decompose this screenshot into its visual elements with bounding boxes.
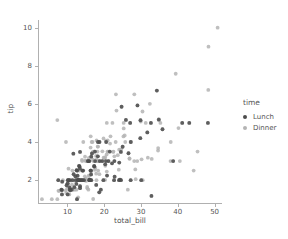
data-point [110,161,114,165]
data-point [104,140,108,144]
data-point [72,172,76,176]
data-point [71,178,75,182]
data-point [112,154,116,158]
data-point [65,183,69,187]
data-point [148,102,152,106]
data-point [141,110,145,114]
data-point [94,183,98,187]
data-point [156,146,160,150]
data-point [123,140,127,144]
data-point [127,151,131,155]
data-point [96,154,100,158]
legend: time LunchDinner [243,98,276,133]
data-point [100,149,104,153]
data-point [64,140,68,144]
data-point [81,169,85,173]
series-dinner [40,26,219,201]
data-point [89,134,93,138]
x-tick-mark [141,204,142,207]
data-points-layer [38,20,222,203]
y-tick-mark [35,142,38,143]
legend-entries: LunchDinner [243,111,276,133]
data-point [90,140,94,144]
x-tick-mark [104,204,105,207]
x-tick-mark [215,204,216,207]
data-point [132,159,136,163]
data-point [117,168,121,172]
data-point [60,193,64,197]
x-tick-label: 20 [93,208,115,216]
data-point [216,26,220,30]
data-point [102,136,106,140]
y-tick-mark [35,28,38,29]
x-tick-label: 40 [167,208,189,216]
data-point [104,159,108,163]
data-point [138,136,142,140]
data-point [105,170,109,174]
data-point [140,157,144,161]
data-point [71,169,75,173]
data-point [75,197,79,201]
data-point [68,188,72,192]
data-point [98,140,102,144]
data-point [66,193,70,197]
data-point [150,157,154,161]
data-point [169,140,173,144]
y-tick-label: 2 [12,176,32,184]
data-point [96,169,100,173]
plot-area [38,20,222,203]
y-axis-spine [38,20,39,203]
data-point [60,180,64,184]
data-point [206,121,210,125]
data-point [122,121,126,125]
data-point [78,184,82,188]
y-tick-mark [35,180,38,181]
data-point [139,118,143,122]
legend-marker-icon [243,126,247,130]
series-lunch [56,89,209,201]
data-point [75,168,79,172]
data-point [91,197,95,201]
data-point [103,162,107,166]
y-tick-label: 6 [12,100,32,108]
y-tick-label: 8 [12,62,32,70]
data-point [108,150,112,154]
scatter-plot-figure: 2468101020304050 total_bill tip time Lun… [0,0,288,239]
data-point [117,161,121,165]
data-point [86,159,90,163]
data-point [108,142,112,146]
data-point [119,150,123,154]
data-point [206,88,210,92]
data-point [86,188,90,192]
legend-marker-icon [243,115,247,119]
y-tick-mark [35,66,38,67]
data-point [78,150,82,154]
data-point [50,197,54,201]
data-point [159,121,163,125]
data-point [155,89,159,93]
data-point [89,146,93,150]
data-point [60,188,64,192]
data-point [128,121,132,125]
data-point [55,197,59,201]
data-point [132,92,136,96]
data-point [81,140,85,144]
y-axis-label: tip [6,89,15,129]
data-point [115,109,119,113]
legend-item-label: Dinner [253,124,276,132]
data-point [178,159,182,163]
data-point [89,169,93,173]
legend-item-lunch[interactable]: Lunch [243,111,276,122]
data-point [74,178,78,182]
data-point [124,118,128,122]
data-point [40,197,44,201]
data-point [139,178,143,182]
data-point [207,45,211,49]
data-point [134,177,138,181]
legend-item-dinner[interactable]: Dinner [243,122,276,133]
x-tick-label: 50 [204,208,226,216]
data-point [112,178,116,182]
data-point [121,145,125,149]
data-point [180,121,184,125]
data-point [83,174,87,178]
